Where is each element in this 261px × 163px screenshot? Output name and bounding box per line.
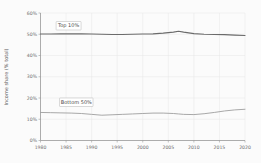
- y-tick-label: 20%: [27, 96, 38, 101]
- y-tick-label: 50%: [27, 32, 38, 37]
- y-tick-label: 40%: [27, 53, 38, 58]
- x-tick-label: 2010: [188, 145, 200, 150]
- x-tick-label: 1990: [86, 145, 98, 150]
- chart-background: [0, 0, 261, 163]
- x-tick-label: 1980: [35, 145, 47, 150]
- income-share-line-chart: 0%10%20%30%40%50%60% 1980198519901995200…: [0, 0, 261, 163]
- chart-screenshot: 0%10%20%30%40%50%60% 1980198519901995200…: [0, 0, 261, 163]
- x-tick-label: 2015: [214, 145, 226, 150]
- x-tick-label: 1995: [111, 145, 123, 150]
- y-tick-label: 30%: [27, 74, 38, 79]
- x-tick-label: 2020: [239, 145, 251, 150]
- x-tick-label: 2000: [137, 145, 149, 150]
- y-axis-title: Income share (% total): [3, 48, 9, 105]
- y-tick-label: 10%: [27, 117, 38, 122]
- x-tick-label: 1985: [60, 145, 72, 150]
- y-tick-label: 60%: [27, 11, 38, 16]
- annotation-label-top-10: Top 10%: [57, 22, 79, 29]
- x-tick-label: 2005: [162, 145, 174, 150]
- annotation-label-bottom-50: Bottom 50%: [61, 99, 92, 105]
- y-tick-label: 0%: [30, 138, 38, 143]
